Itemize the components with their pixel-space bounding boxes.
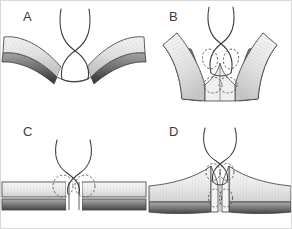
tissue-right-dark-layer — [82, 199, 146, 210]
panel-label-d: D — [169, 124, 179, 139]
panel-label-c: C — [23, 124, 33, 139]
panel-label-b: B — [169, 9, 178, 24]
tissue-right-light-layer — [235, 33, 277, 101]
tissue-left-light-layer — [2, 182, 66, 197]
tissue-left-light-layer — [163, 33, 205, 101]
panel-label-a: A — [23, 9, 32, 24]
tissue-left-dark-layer — [149, 202, 211, 214]
tissue-left-dark-layer — [2, 199, 66, 210]
figure-root: A B C D — [0, 0, 292, 229]
tissue-left-light-layer — [149, 166, 211, 202]
tissue-right-light-layer — [229, 166, 291, 202]
tissue-right-dark-layer — [229, 202, 291, 214]
